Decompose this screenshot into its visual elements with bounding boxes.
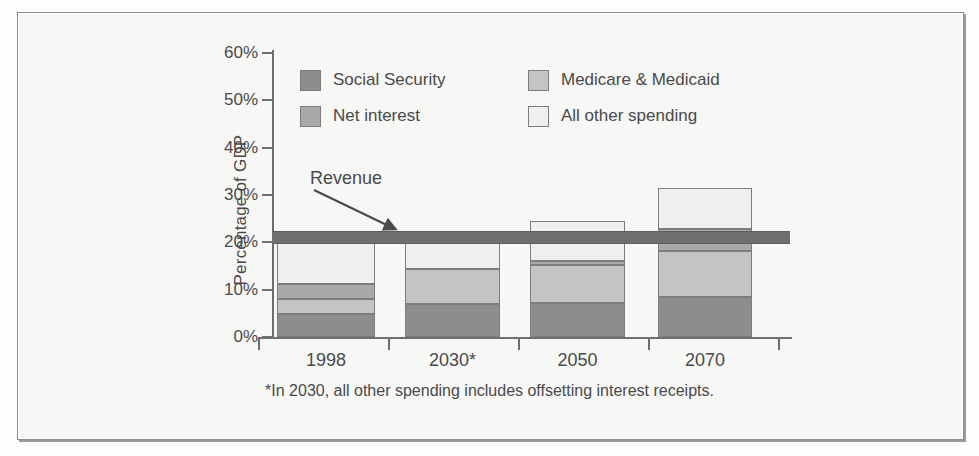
y-axis-tick-label: 40%	[200, 139, 258, 156]
x-axis-tick	[648, 339, 650, 350]
legend-swatch-icon	[528, 70, 549, 91]
bar-segment	[277, 242, 375, 284]
bar-stack	[658, 0, 752, 337]
revenue-arrow-icon	[300, 185, 420, 240]
y-axis-tick-label: 10%	[200, 281, 258, 298]
bar-segment	[277, 314, 375, 337]
chart-plot-area: Percentage of GDP 60%50%40%30%20%10%0% 1…	[0, 0, 979, 456]
bar-segment	[658, 251, 752, 297]
legend-label: Medicare & Medicaid	[561, 70, 720, 90]
y-axis-line	[272, 50, 274, 339]
y-axis-labels: 60%50%40%30%20%10%0%	[196, 0, 258, 400]
legend-item-net_interest: Net interest	[300, 103, 420, 129]
legend-swatch-icon	[300, 70, 321, 91]
bar-segment	[530, 265, 625, 303]
bar-segment	[405, 304, 500, 337]
x-axis-tick	[258, 339, 260, 350]
bar-segment	[277, 299, 375, 314]
y-axis-tick-label: 20%	[200, 233, 258, 250]
bar-segment	[530, 261, 625, 265]
legend-item-social_security: Social Security	[300, 67, 445, 93]
bar-segment	[658, 297, 752, 337]
legend-swatch-icon	[528, 106, 549, 127]
legend-item-all_other_spending: All other spending	[528, 103, 697, 129]
chart-footnote: *In 2030, all other spending includes of…	[0, 382, 979, 400]
legend-label: All other spending	[561, 106, 697, 126]
chart-legend: Social SecurityMedicare & MedicaidNet in…	[300, 67, 730, 137]
x-axis-tick-label: 2070	[645, 350, 765, 371]
legend-label: Net interest	[333, 106, 420, 126]
y-axis-tick-label: 50%	[200, 91, 258, 108]
x-axis-tick	[778, 339, 780, 350]
x-axis-line	[258, 337, 792, 339]
x-axis-tick	[518, 339, 520, 350]
bar-stack	[530, 0, 625, 337]
legend-label: Social Security	[333, 70, 445, 90]
x-axis-tick-label: 1998	[266, 350, 386, 371]
bar-segment	[277, 284, 375, 299]
y-axis-tick-label: 60%	[200, 44, 258, 61]
x-axis-tick	[388, 339, 390, 350]
bar-segment	[405, 269, 500, 304]
bar-stack	[405, 0, 500, 337]
x-axis-tick-label: 2030*	[393, 350, 513, 371]
x-axis-tick-label: 2050	[518, 350, 638, 371]
y-axis-tick-label: 0%	[200, 328, 258, 345]
bar-segment	[405, 242, 500, 269]
legend-item-medicare_medicaid: Medicare & Medicaid	[528, 67, 720, 93]
bar-segment	[530, 303, 625, 337]
bar-segment	[658, 188, 752, 229]
figure-root: Percentage of GDP 60%50%40%30%20%10%0% 1…	[0, 0, 979, 456]
y-axis-tick-label: 30%	[200, 186, 258, 203]
legend-swatch-icon	[300, 106, 321, 127]
